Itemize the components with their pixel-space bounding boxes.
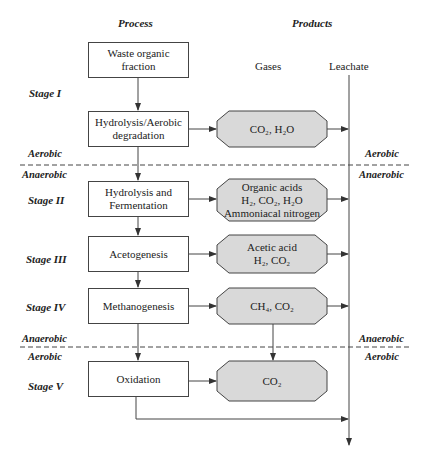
leachate-column-label: Leachate <box>329 60 369 72</box>
condition-label: Aerobic <box>28 148 62 159</box>
process-box-oxidation: Oxidation <box>88 361 189 397</box>
process-header: Process <box>118 17 153 29</box>
stage-2-label: Stage II <box>28 194 64 206</box>
process-box-text: Methanogenesis <box>103 300 174 313</box>
condition-label: Aerobic <box>28 351 62 362</box>
process-box-text: fraction <box>121 60 155 73</box>
process-box-text: Acetogenesis <box>109 248 168 261</box>
process-box-methanogenesis: Methanogenesis <box>88 288 189 324</box>
process-box-hydrolysis-aerobic: Hydrolysis/Aerobic degradation <box>88 111 189 147</box>
condition-label: Aerobic <box>365 148 399 159</box>
stage-5-label: Stage V <box>28 380 63 392</box>
gas-box-co2: CO₂ <box>217 361 327 401</box>
condition-label: Aerobic <box>365 351 399 362</box>
process-box-waste-organic-fraction: Waste organic fraction <box>88 42 189 78</box>
gas-box-text: Acetic acid <box>247 241 297 254</box>
gas-box-text: H₂, CO₂ <box>254 254 290 267</box>
gas-box-text: CO₂, H₂O <box>250 123 294 136</box>
gas-box-co2-h2o: CO₂, H₂O <box>217 111 327 147</box>
condition-label: Anaerobic <box>22 169 67 180</box>
gas-box-text: CH₄, CO₂ <box>250 300 294 313</box>
gas-box-text: H₂, CO₂, H₂O <box>241 194 303 207</box>
process-box-acetogenesis: Acetogenesis <box>88 236 189 272</box>
gas-box-text: Organic acids <box>242 181 303 194</box>
gases-column-label: Gases <box>255 60 281 72</box>
gas-box-ch4-co2: CH₄, CO₂ <box>217 288 327 324</box>
condition-label: Anaerobic <box>359 333 404 344</box>
gas-box-text: CO₂ <box>262 375 281 388</box>
gas-box-text: Ammoniacal nitrogen <box>224 207 320 220</box>
stage-4-label: Stage IV <box>26 301 65 313</box>
process-box-text: Oxidation <box>117 373 161 386</box>
gas-box-acetic-acid: Acetic acid H₂, CO₂ <box>217 235 327 273</box>
products-header: Products <box>292 17 332 29</box>
process-box-text: Waste organic <box>107 47 169 60</box>
process-box-text: Fermentation <box>109 199 168 212</box>
process-box-text: degradation <box>113 129 165 142</box>
condition-label: Anaerobic <box>359 169 404 180</box>
stage-3-label: Stage III <box>26 253 67 265</box>
process-box-text: Hydrolysis and <box>105 186 172 199</box>
process-box-text: Hydrolysis/Aerobic <box>95 116 182 129</box>
process-box-hydrolysis-fermentation: Hydrolysis and Fermentation <box>88 181 189 217</box>
gas-box-organic-acids: Organic acids H₂, CO₂, H₂O Ammoniacal ni… <box>217 179 327 221</box>
stage-1-label: Stage I <box>29 87 61 99</box>
condition-label: Anaerobic <box>22 333 67 344</box>
